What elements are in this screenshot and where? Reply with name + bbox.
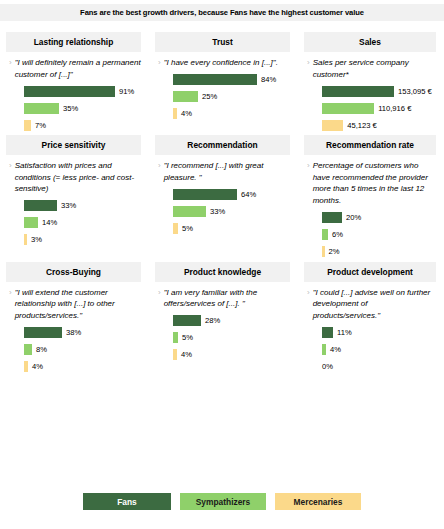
bar-value-label: 8%	[36, 345, 47, 354]
bar-value-label: 45,123 €	[347, 121, 377, 130]
panel-description: "I will extend the customer relationship…	[15, 287, 141, 322]
bar-fans	[322, 212, 342, 223]
chevron-right-icon: ›	[158, 160, 161, 183]
panel-bars: 91%35%7%	[6, 84, 141, 132]
bar-value-label: 4%	[32, 362, 43, 371]
bar-value-label: 11%	[337, 328, 352, 337]
panel-bars: 64%33%5%	[155, 187, 290, 235]
panel-bars: 153,095 €110,916 €45,123 €	[304, 84, 436, 132]
bar-row: 4%	[173, 348, 290, 362]
bar-value-label: 7%	[35, 121, 46, 130]
bar-sympathizers	[173, 332, 178, 343]
bar-row: 84%	[173, 73, 290, 87]
chevron-right-icon: ›	[9, 287, 12, 322]
panel-description: Satisfaction with prices and conditions …	[15, 160, 141, 195]
bar-mercenaries	[24, 234, 27, 245]
bar-fans	[24, 327, 62, 338]
bar-row: 45,123 €	[322, 118, 436, 132]
bar-value-label: 33%	[210, 207, 225, 216]
panel-description-row: ›"I have every confidence in [...]".	[155, 57, 290, 69]
panel-description-row: ›"I recommend [...] with great pleasure.…	[155, 160, 290, 183]
bar-mercenaries	[322, 246, 325, 257]
bar-value-label: 38%	[66, 328, 81, 337]
bar-value-label: 91%	[119, 87, 134, 96]
panel-description-row: ›"I will definitely remain a permanent c…	[6, 57, 141, 80]
chevron-right-icon: ›	[307, 57, 310, 80]
chevron-right-icon: ›	[307, 160, 310, 206]
bar-value-label: 0%	[322, 362, 333, 371]
panel-title: Product knowledge	[184, 267, 261, 277]
panel-card: Product knowledge›"I am very familiar wi…	[149, 262, 298, 377]
bar-value-label: 5%	[182, 224, 193, 233]
panel-description: "I will definitely remain a permanent cu…	[15, 57, 141, 80]
panel-title: Lasting relationship	[34, 37, 114, 47]
bar-mercenaries	[322, 120, 343, 131]
panel-card: Trust›"I have every confidence in [...]"…	[149, 32, 298, 135]
legend-item-mercenaries: Mercenaries	[275, 493, 361, 510]
bar-fans	[24, 200, 57, 211]
panel-card: Recommendation rate›Percentage of custom…	[298, 135, 444, 261]
panel-description: "I am very familiar with the offers/serv…	[164, 287, 290, 310]
header-banner: Fans are the best growth drivers, becaus…	[0, 4, 444, 21]
panel-title: Sales	[359, 37, 381, 47]
chevron-right-icon: ›	[9, 57, 12, 80]
panel-description: "I recommend [...] with great pleasure. …	[164, 160, 290, 183]
panel-header: Product knowledge	[155, 262, 290, 282]
bar-value-label: 28%	[205, 316, 220, 325]
bar-sympathizers	[24, 217, 38, 228]
panel-bars: 20%6%2%	[304, 211, 436, 259]
panel-title: Price sensitivity	[42, 140, 106, 150]
panel-description-row: ›Satisfaction with prices and conditions…	[6, 160, 141, 195]
bar-value-label: 4%	[181, 350, 192, 359]
bar-row: 33%	[173, 204, 290, 218]
panel-header: Price sensitivity	[6, 135, 141, 155]
bar-row: 11%	[322, 325, 436, 339]
bar-fans	[322, 86, 394, 97]
panel-title: Recommendation rate	[326, 140, 414, 150]
bar-mercenaries	[173, 108, 177, 119]
bar-fans	[173, 315, 201, 326]
bar-row: 110,916 €	[322, 101, 436, 115]
panel-description-row: ›Percentage of customers who have recomm…	[304, 160, 436, 206]
bar-row: 7%	[24, 118, 141, 132]
bar-value-label: 20%	[346, 213, 361, 222]
chevron-right-icon: ›	[307, 287, 310, 322]
panel-description: Percentage of customers who have recomme…	[313, 160, 436, 206]
bar-row: 14%	[24, 216, 141, 230]
banner-title: Fans are the best growth drivers, becaus…	[80, 8, 364, 17]
bar-value-label: 3%	[31, 235, 42, 244]
bar-row: 153,095 €	[322, 84, 436, 98]
panel-card: Sales›Sales per service company customer…	[298, 32, 444, 135]
panel-card: Recommendation›"I recommend [...] with g…	[149, 135, 298, 261]
bar-row: 91%	[24, 84, 141, 98]
chevron-right-icon: ›	[158, 287, 161, 310]
panel-description: "I have every confidence in [...]".	[164, 57, 278, 69]
panel-title: Product development	[327, 267, 413, 277]
panel-title: Cross-Buying	[46, 267, 101, 277]
panel-bars: 11%4%0%	[304, 325, 436, 373]
bar-value-label: 153,095 €	[398, 87, 432, 96]
chevron-right-icon: ›	[9, 160, 12, 195]
panel-bars: 84%25%4%	[155, 73, 290, 121]
bar-mercenaries	[24, 361, 28, 372]
panel-description: "I could [...] advise well on further de…	[313, 287, 436, 322]
bar-row: 28%	[173, 314, 290, 328]
bar-value-label: 84%	[261, 75, 276, 84]
panel-description-row: ›"I could [...] advise well on further d…	[304, 287, 436, 322]
bar-row: 8%	[24, 342, 141, 356]
panel-description-row: ›Sales per service company customer*	[304, 57, 436, 80]
panel-header: Recommendation rate	[304, 135, 436, 155]
bar-value-label: 14%	[42, 218, 57, 227]
legend-item-fans: Fans	[83, 493, 171, 510]
panel-grid: Lasting relationship›"I will definitely …	[0, 32, 444, 376]
panel-card: Cross-Buying›"I will extend the customer…	[0, 262, 149, 377]
bar-row: 4%	[24, 359, 141, 373]
bar-fans	[24, 86, 115, 97]
bar-row: 35%	[24, 101, 141, 115]
bar-row: 0%	[322, 359, 436, 373]
bar-fans	[173, 74, 257, 85]
bar-row: 4%	[173, 107, 290, 121]
panel-description: Sales per service company customer*	[313, 57, 436, 80]
bar-value-label: 4%	[330, 345, 341, 354]
bar-mercenaries	[173, 223, 178, 234]
